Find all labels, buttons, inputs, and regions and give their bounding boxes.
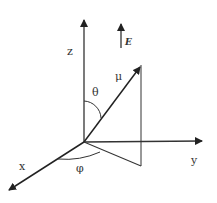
field-label: E <box>124 37 132 47</box>
coordinate-diagram: z E μ θ φ x y <box>0 0 217 203</box>
mu-vector <box>84 67 140 142</box>
xy-projection-line <box>84 142 141 166</box>
x-axis-label: x <box>19 160 26 173</box>
theta-label: θ <box>92 86 99 99</box>
z-axis-label: z <box>67 45 73 58</box>
phi-arc <box>58 152 100 159</box>
y-axis <box>84 141 202 142</box>
mu-label: μ <box>115 70 122 83</box>
y-axis-label: y <box>190 154 198 167</box>
phi-label: φ <box>76 162 84 175</box>
theta-arc <box>84 101 101 118</box>
